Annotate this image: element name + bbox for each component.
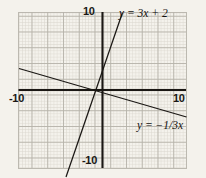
y-axis-tick-label-positive-10: 10 xyxy=(83,6,95,17)
equation-label-steep-line: y = 3x + 2 xyxy=(119,8,168,20)
equation-label-shallow-line: y = −1/3x xyxy=(137,120,183,132)
x-axis-tick-label-positive-10: 10 xyxy=(173,93,185,104)
x-axis-tick-label-negative-10: -10 xyxy=(9,93,24,104)
graph-figure: -10 10 10 -10 y = 3x + 2 y = −1/3x xyxy=(0,0,206,178)
coordinate-plane-plot xyxy=(0,0,206,178)
y-axis-tick-label-negative-10: -10 xyxy=(82,155,97,166)
